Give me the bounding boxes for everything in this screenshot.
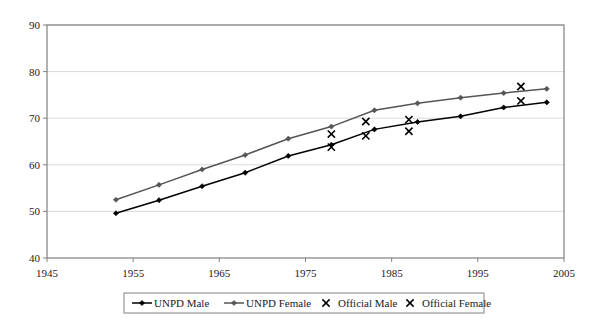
y-tick-label: 40 [29,252,41,264]
y-tick-label: 70 [29,112,41,124]
x-tick-label: 1955 [122,267,145,279]
y-tick-label: 80 [29,66,41,78]
chart-legend: UNPD MaleUNPD FemaleOfficial MaleOfficia… [124,293,491,313]
x-tick-label: 2005 [553,267,576,279]
y-tick-label: 50 [29,205,41,217]
legend-label: Official Female [422,297,491,309]
legend-label: UNPD Male [154,297,209,309]
x-tick-label: 1965 [208,267,231,279]
x-tick-label: 1995 [467,267,490,279]
y-tick-label: 90 [29,19,41,31]
legend-label: UNPD Female [246,297,311,309]
y-tick-label: 60 [29,159,41,171]
chart-container: 405060708090 194519551965197519851995200… [0,0,607,328]
legend-label: Official Male [338,297,397,309]
x-tick-label: 1975 [295,267,318,279]
line-chart: 405060708090 194519551965197519851995200… [0,0,607,328]
x-tick-label: 1985 [381,267,404,279]
x-tick-label: 1945 [36,267,59,279]
